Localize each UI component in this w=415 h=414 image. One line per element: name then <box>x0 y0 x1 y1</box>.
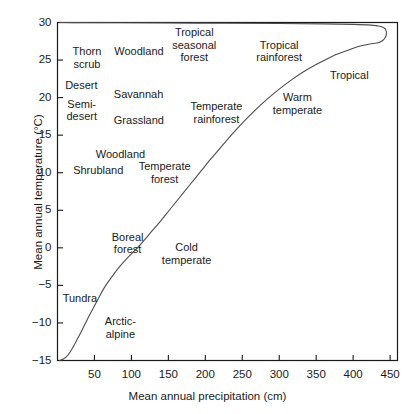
x-tick-label: 250 <box>222 368 262 380</box>
biome-label-savannah: Savannah <box>114 88 164 101</box>
y-tick-label: 20 <box>18 91 52 103</box>
x-tick-label: 150 <box>148 368 188 380</box>
biome-label-temperate-rainforest: Temperate rainforest <box>190 100 242 125</box>
biome-label-arctic-alpine: Arctic- alpine <box>105 315 136 340</box>
x-tick-label: 50 <box>74 368 114 380</box>
biome-label-tropical: Tropical <box>330 69 369 82</box>
y-tick-label: 0 <box>18 241 52 253</box>
biome-label-boreal-forest: Boreal forest <box>112 231 144 256</box>
x-tick-label: 100 <box>111 368 151 380</box>
biome-label-desert: Desert <box>65 79 97 92</box>
y-tick-label: 5 <box>18 203 52 215</box>
x-tick-label: 350 <box>296 368 336 380</box>
x-tick-label: 450 <box>370 368 410 380</box>
biome-label-cold-temperate: Cold temperate <box>162 241 212 266</box>
y-tick-label: 25 <box>18 53 52 65</box>
x-tick-label: 300 <box>259 368 299 380</box>
biome-label-tropical-rainforest: Tropical rainforest <box>256 39 302 64</box>
x-axis-title: Mean annual precipitation (cm) <box>0 390 415 402</box>
biome-label-shrubland: Shrubland <box>73 164 123 177</box>
biome-label-woodland-upper: Woodland <box>114 45 163 58</box>
y-tick-label: 30 <box>18 16 52 28</box>
biome-label-woodland-lower: Woodland <box>96 148 145 161</box>
y-tick-label: −15 <box>18 354 52 366</box>
y-tick-label: 10 <box>18 166 52 178</box>
biome-label-tundra: Tundra <box>63 292 97 305</box>
biome-label-tropical-seasonal-forest: Tropical seasonal forest <box>172 26 216 64</box>
biome-climate-chart: Mean annual temperature (°C) Mean annual… <box>0 0 415 414</box>
biome-label-semi-desert: Semi- desert <box>66 98 97 123</box>
y-tick-label: 15 <box>18 128 52 140</box>
biome-label-grassland: Grassland <box>114 114 164 127</box>
biome-label-thorn-scrub: Thorn scrub <box>73 45 102 70</box>
x-tick-label: 200 <box>185 368 225 380</box>
x-tick-label: 400 <box>333 368 373 380</box>
biome-label-temperate-forest: Temperate forest <box>139 160 191 185</box>
y-tick-label: −10 <box>18 316 52 328</box>
y-tick-label: −5 <box>18 278 52 290</box>
biome-label-warm-temperate: Warm temperate <box>273 91 323 116</box>
